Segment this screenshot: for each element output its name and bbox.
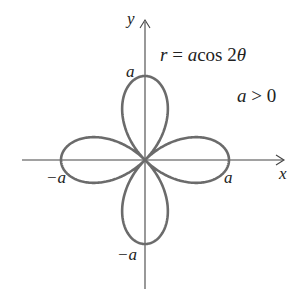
y-axis-label: y: [127, 10, 135, 27]
eq-theta: θ: [237, 44, 246, 65]
tick-label-left: −a: [46, 169, 66, 186]
tick-label-right: a: [224, 169, 233, 186]
tick-label-top: a: [126, 63, 135, 80]
eq-a: a: [188, 44, 198, 65]
condition-label: a > 0: [237, 86, 276, 105]
x-axis-label: x: [279, 165, 287, 182]
eq-equals: =: [167, 44, 187, 65]
polar-plot: [0, 0, 300, 299]
tick-label-bottom: −a: [117, 246, 137, 263]
cond-rest: > 0: [247, 85, 277, 106]
equation-label: r = acos 2θ: [160, 45, 246, 64]
eq-cos: cos 2: [197, 44, 237, 65]
cond-a: a: [237, 85, 247, 106]
